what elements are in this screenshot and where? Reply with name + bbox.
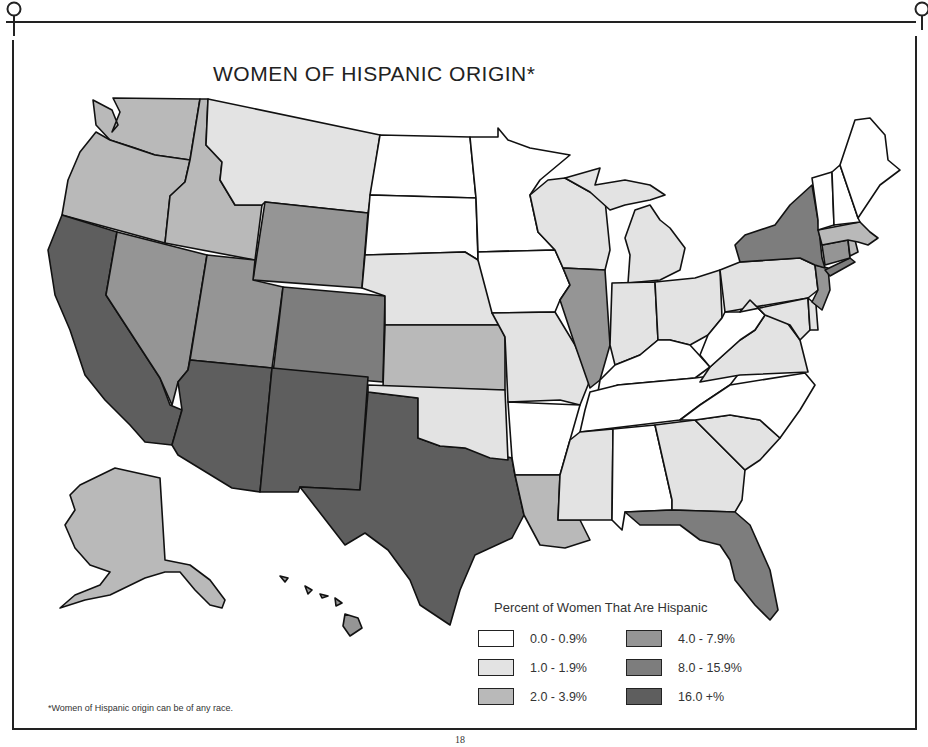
page-number: 18: [455, 734, 465, 745]
legend-item-4-7.9: 4.0 - 7.9%: [626, 630, 735, 647]
state-mi[interactable]: [625, 205, 685, 283]
state-hi[interactable]: [280, 576, 362, 636]
state-ny[interactable]: [735, 185, 825, 268]
state-nd[interactable]: [370, 135, 476, 198]
state-az[interactable]: [172, 360, 272, 492]
state-ia[interactable]: [478, 250, 570, 313]
legend-label: 8.0 - 15.9%: [678, 661, 742, 675]
state-sd[interactable]: [365, 195, 478, 260]
state-ks[interactable]: [383, 325, 505, 390]
legend-swatch: [626, 688, 662, 705]
legend-label: 0.0 - 0.9%: [530, 632, 587, 646]
state-co[interactable]: [273, 287, 385, 382]
legend-label: 1.0 - 1.9%: [530, 661, 587, 675]
legend-item-2-3.9: 2.0 - 3.9%: [478, 688, 587, 705]
legend-item-16-plus: 16.0 +%: [626, 688, 724, 705]
state-nm[interactable]: [260, 368, 368, 492]
legend-swatch: [478, 630, 514, 647]
legend-swatch: [478, 659, 514, 676]
state-mt[interactable]: [206, 99, 380, 213]
state-ak[interactable]: [60, 468, 225, 608]
legend-label: 4.0 - 7.9%: [678, 632, 735, 646]
state-wy[interactable]: [253, 202, 368, 288]
legend-item-8-15.9: 8.0 - 15.9%: [626, 659, 742, 676]
legend-swatch: [626, 659, 662, 676]
legend-title: Percent of Women That Are Hispanic: [494, 600, 707, 615]
legend-swatch: [626, 630, 662, 647]
legend-item-1-1.9: 1.0 - 1.9%: [478, 659, 587, 676]
legend-item-0-0.9: 0.0 - 0.9%: [478, 630, 587, 647]
legend-label: 2.0 - 3.9%: [530, 690, 587, 704]
legend-label: 16.0 +%: [678, 690, 724, 704]
legend-swatch: [478, 688, 514, 705]
footnote: *Women of Hispanic origin can be of any …: [48, 703, 233, 713]
